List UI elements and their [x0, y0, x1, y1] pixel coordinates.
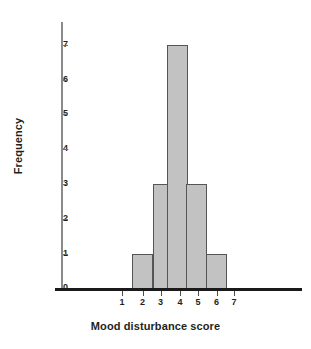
histogram-figure: Frequency 7 6 5 4 3 2 1 0 1 — [0, 0, 311, 349]
x-tick-label-3: 3 — [153, 297, 169, 307]
x-tick-mark-5 — [198, 291, 199, 296]
x-tick-label-6: 6 — [209, 297, 225, 307]
x-axis-title: Mood disturbance score — [0, 320, 311, 332]
x-tick-mark-1 — [122, 291, 123, 296]
x-axis-line — [55, 288, 302, 291]
bar-4 — [167, 45, 188, 289]
x-tick-mark-3 — [161, 291, 162, 296]
bar-6 — [206, 254, 227, 290]
x-tick-mark-6 — [217, 291, 218, 296]
x-tick-label-4: 4 — [172, 297, 188, 307]
x-tick-label-1: 1 — [114, 297, 130, 307]
x-tick-mark-7 — [234, 291, 235, 296]
x-tick-label-2: 2 — [135, 297, 151, 307]
x-tick-label-7: 7 — [226, 297, 242, 307]
bar-2 — [132, 254, 153, 290]
bar-5 — [186, 184, 207, 289]
x-tick-mark-4 — [180, 291, 181, 296]
x-tick-label-5: 5 — [190, 297, 206, 307]
x-tick-mark-2 — [143, 291, 144, 296]
